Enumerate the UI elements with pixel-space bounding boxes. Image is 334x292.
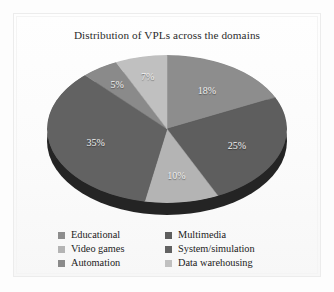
pie-label-system-simulation: 35%: [86, 136, 104, 147]
legend-swatch-system-simulation: [165, 246, 172, 253]
pie-top-face: [47, 55, 287, 203]
legend-label-automation: Automation: [71, 256, 120, 270]
legend-item-video-games[interactable]: Video games: [58, 242, 163, 256]
chart-title: Distribution of VPLs across the domains: [0, 29, 334, 41]
legend-label-multimedia: Multimedia: [178, 228, 226, 242]
legend-label-educational: Educational: [71, 228, 120, 242]
pie-label-data-warehousing: 7%: [141, 70, 154, 81]
legend-item-data-warehousing[interactable]: Data warehousing: [165, 256, 290, 270]
pie-label-video-games: 10%: [167, 169, 185, 180]
pie-label-multimedia: 25%: [228, 139, 246, 150]
legend-item-system-simulation[interactable]: System/simulation: [165, 242, 290, 256]
legend-swatch-video-games: [58, 246, 65, 253]
pie-label-educational: 18%: [198, 85, 216, 96]
legend-item-educational[interactable]: Educational: [58, 228, 163, 242]
legend-swatch-multimedia: [165, 232, 172, 239]
pie-chart: 18%25%10%35%5%7%: [47, 55, 287, 215]
pie-label-automation: 5%: [110, 78, 123, 89]
legend-label-system-simulation: System/simulation: [178, 242, 255, 256]
legend-swatch-data-warehousing: [165, 260, 172, 267]
legend-item-multimedia[interactable]: Multimedia: [165, 228, 290, 242]
legend-label-data-warehousing: Data warehousing: [178, 256, 253, 270]
figure-container: Distribution of VPLs across the domains …: [0, 0, 334, 292]
chart-legend: Educational Multimedia Video games Syste…: [58, 228, 290, 270]
legend-swatch-automation: [58, 260, 65, 267]
pie-slices: [47, 55, 287, 203]
legend-label-video-games: Video games: [71, 242, 124, 256]
legend-swatch-educational: [58, 232, 65, 239]
legend-item-automation[interactable]: Automation: [58, 256, 163, 270]
